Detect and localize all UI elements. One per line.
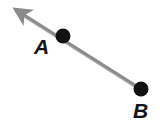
point-a-label: A	[34, 36, 49, 57]
point-a-dot	[56, 29, 71, 44]
point-b-label: B	[133, 100, 148, 121]
point-b-dot	[134, 82, 149, 97]
diagram-canvas: A B	[0, 0, 163, 127]
